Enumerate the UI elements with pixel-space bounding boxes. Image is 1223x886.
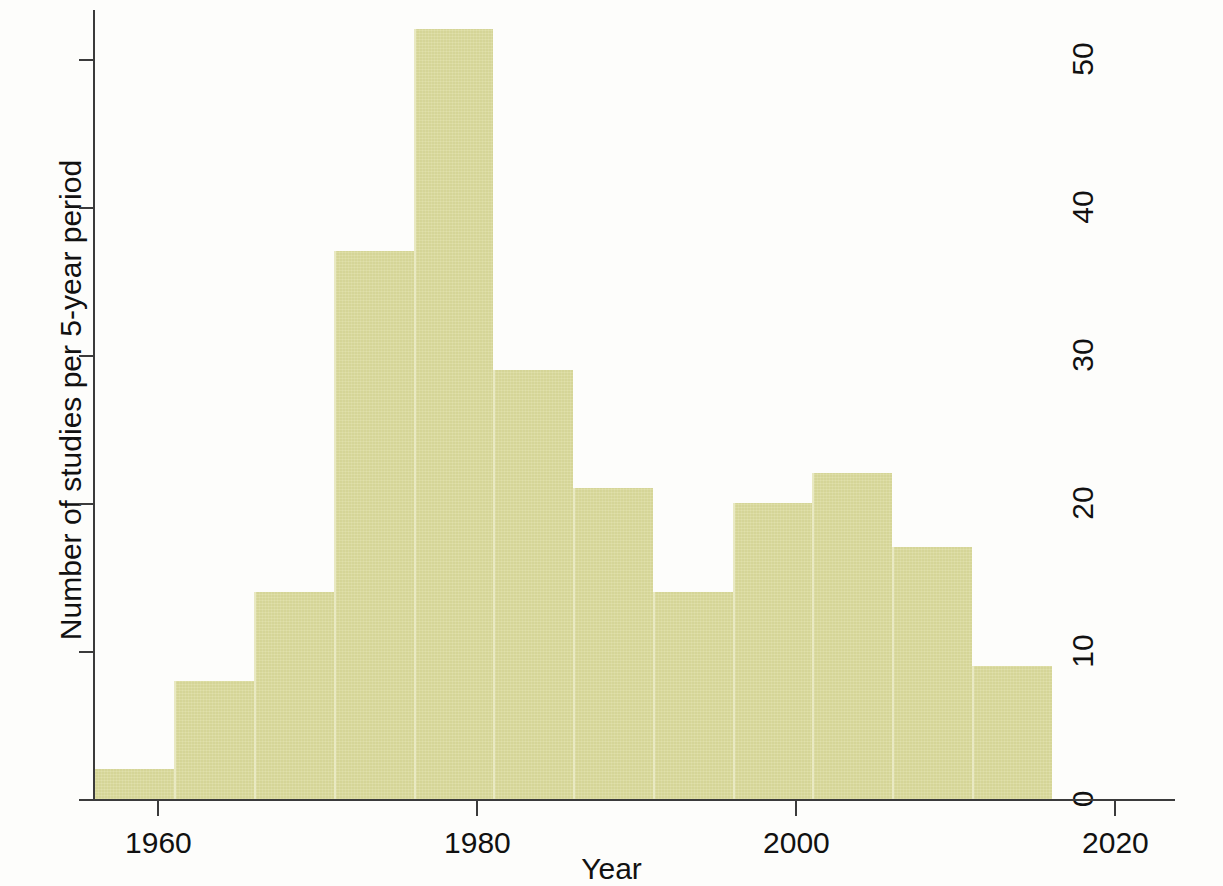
histogram-bar	[892, 547, 972, 799]
histogram-bar	[972, 666, 1052, 799]
y-axis-tick	[79, 355, 93, 357]
histogram-bar	[812, 473, 892, 799]
x-axis-line	[93, 799, 1175, 801]
histogram-bar	[733, 503, 813, 799]
x-axis-tick	[795, 800, 797, 816]
histogram-bar	[174, 681, 254, 799]
plot-area: 1960198020002020	[93, 10, 1175, 800]
x-axis-tick	[1114, 800, 1116, 816]
histogram-bar	[334, 251, 414, 799]
histogram-bar	[653, 592, 733, 799]
y-axis-title-container: Number of studies per 5-year period	[2, 0, 48, 810]
histogram-bar	[493, 370, 573, 799]
y-axis-tick	[79, 503, 93, 505]
histogram-bar	[254, 592, 334, 799]
histogram-bar	[573, 488, 653, 799]
y-axis-tick	[79, 799, 93, 801]
x-axis-tick	[476, 800, 478, 816]
histogram-bar	[95, 769, 175, 799]
y-axis-tick	[79, 59, 93, 61]
y-axis-tick	[79, 207, 93, 209]
y-axis-title: Number of studies per 5-year period	[48, 0, 94, 800]
x-axis-tick	[157, 800, 159, 816]
y-axis-tick	[79, 651, 93, 653]
histogram-figure: Number of studies per 5-year period 0102…	[0, 0, 1223, 886]
y-axis-line	[93, 10, 95, 800]
x-axis-title: Year	[0, 852, 1223, 886]
histogram-bar	[414, 29, 494, 799]
